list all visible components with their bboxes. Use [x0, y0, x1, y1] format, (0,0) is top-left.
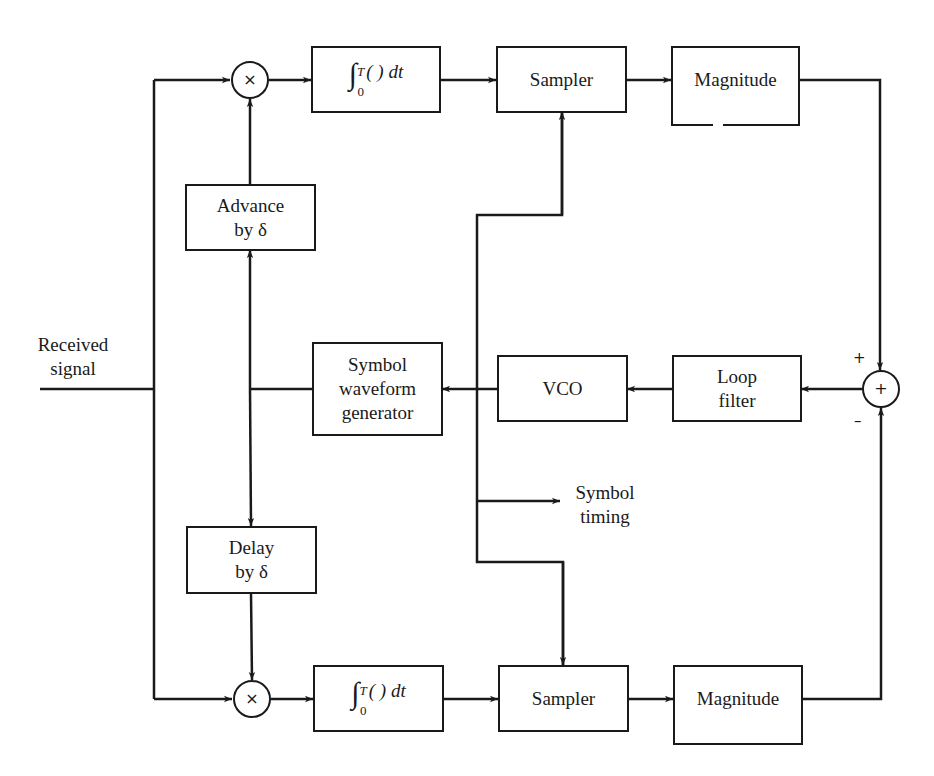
loop-filter-block: Loop filter	[672, 355, 802, 422]
symbol-timing-label: Symbol timing	[565, 481, 645, 529]
received-signal-label: Received signal	[18, 333, 128, 381]
multiply-icon: ×	[245, 691, 258, 707]
upper-sampler-block: Sampler	[496, 46, 627, 113]
lower-sampler-block: Sampler	[498, 665, 629, 732]
plus-icon: +	[874, 381, 887, 397]
magnitude-border-gap	[713, 122, 723, 127]
upper-integrator-block: ∫T0( ) dt	[311, 46, 441, 113]
summer-minus-sign: –	[854, 412, 862, 430]
summer-plus-sign: +	[853, 349, 866, 367]
upper-magnitude-block: Magnitude	[671, 46, 800, 126]
multiply-icon: ×	[243, 72, 256, 88]
integral-icon: ∫	[349, 57, 357, 90]
vco-block: VCO	[497, 355, 628, 422]
upper-multiplier: ×	[231, 61, 269, 99]
waveform-generator-block: Symbol waveform generator	[312, 342, 443, 436]
delay-block: Delay by δ	[186, 526, 317, 594]
integrator-expression: ∫T0( ) dt	[349, 60, 403, 99]
summing-junction: +	[862, 370, 900, 408]
integrator-expression: ∫T0( ) dt	[351, 679, 405, 718]
integral-icon: ∫	[351, 676, 359, 709]
advance-block: Advance by δ	[185, 184, 316, 251]
lower-multiplier: ×	[233, 680, 271, 718]
lower-integrator-block: ∫T0( ) dt	[313, 665, 444, 732]
lower-magnitude-block: Magnitude	[673, 665, 803, 745]
